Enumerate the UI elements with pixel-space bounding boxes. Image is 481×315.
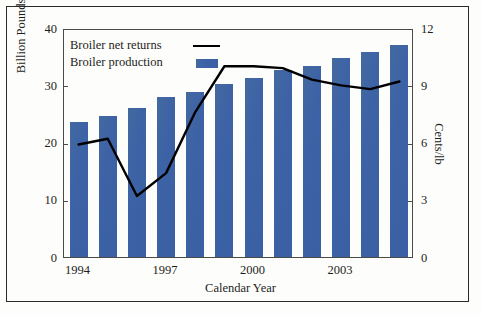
- y-tick-label-0: 0: [7, 252, 57, 265]
- y2-tick-label-12: 12: [421, 23, 434, 36]
- legend-item-broiler-net-returns: Broiler net returns: [70, 38, 220, 53]
- y-tick-label-10: 10: [7, 194, 57, 207]
- net-returns-line: [79, 66, 400, 196]
- x-tick-label-1994: 1994: [53, 264, 103, 277]
- x-axis-title: Calendar Year: [0, 281, 481, 296]
- x-tick-label-2000: 2000: [228, 264, 278, 277]
- line-swatch-icon: [193, 45, 220, 47]
- x-tick-label-2003: 2003: [315, 264, 365, 277]
- x-tick-label-1997: 1997: [140, 264, 190, 277]
- y2-tick-label-6: 6: [421, 137, 427, 150]
- legend-label-net-returns: Broiler net returns: [70, 38, 162, 53]
- y-axis-left-title: Billion Pounds: [14, 0, 29, 96]
- legend-item-broiler-production: Broiler production: [70, 55, 220, 70]
- chart-figure: 010203040 036912 1994199720002003 Billio…: [0, 0, 481, 315]
- chart-legend: Broiler net returns Broiler production: [70, 38, 220, 72]
- bar-swatch-icon: [196, 59, 218, 68]
- y2-tick-label-0: 0: [421, 252, 427, 265]
- legend-label-production: Broiler production: [70, 55, 163, 70]
- y2-tick-label-3: 3: [421, 194, 427, 207]
- y2-tick-label-9: 9: [421, 80, 427, 93]
- y-tick-label-20: 20: [7, 137, 57, 150]
- y-axis-right-title: Cents/lb: [431, 104, 446, 184]
